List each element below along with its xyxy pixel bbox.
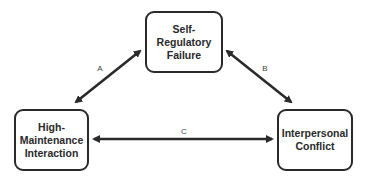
edge-label-a: A bbox=[97, 64, 102, 73]
node-self-regulatory-failure: Self- Regulatory Failure bbox=[145, 11, 223, 73]
edge-label-b: B bbox=[262, 64, 267, 73]
node-label: High- Maintenance Interaction bbox=[20, 121, 84, 160]
node-high-maintenance-interaction: High- Maintenance Interaction bbox=[14, 109, 89, 171]
node-label: Interpersonal Conflict bbox=[282, 127, 349, 153]
arrow-b bbox=[227, 51, 291, 102]
node-interpersonal-conflict: Interpersonal Conflict bbox=[277, 109, 353, 171]
node-label: Self- Regulatory Failure bbox=[157, 23, 212, 62]
arrow-a bbox=[76, 51, 140, 102]
edge-label-c: C bbox=[181, 127, 187, 136]
